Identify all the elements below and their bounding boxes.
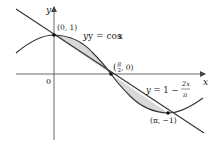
point-pi-neg1-label: (π, −1) — [150, 116, 177, 125]
point-pi-neg1 — [166, 111, 170, 115]
point-pi-over-2-0 — [109, 72, 113, 76]
x-axis-label: x — [203, 77, 208, 87]
line-curve — [16, 9, 204, 133]
svg-text:(: ( — [113, 62, 117, 72]
svg-text:, 0): , 0) — [121, 63, 134, 72]
y-axis-label: y — [45, 5, 52, 15]
svg-text:yy = cos: yy = cos — [82, 31, 122, 41]
cosine-curve-label: yy = cos — [82, 31, 122, 41]
svg-text:π: π — [182, 91, 188, 99]
origin-label: 0 — [46, 77, 51, 86]
area-between-curves-diagram: y x 0 (0, 1) ( π 2 , 0) (π, −1) yy = cos… — [0, 0, 220, 149]
cosine-curve-label-var: x — [118, 31, 123, 41]
svg-text:2x: 2x — [181, 80, 190, 88]
svg-text:y = 1 −: y = 1 − — [145, 85, 179, 95]
point-0-1-label: (0, 1) — [57, 23, 77, 32]
line-curve-label: y = 1 − 2x π — [145, 80, 190, 99]
point-pi-over-2-0-label: ( π 2 , 0) — [113, 60, 134, 73]
point-0-1 — [52, 33, 56, 37]
